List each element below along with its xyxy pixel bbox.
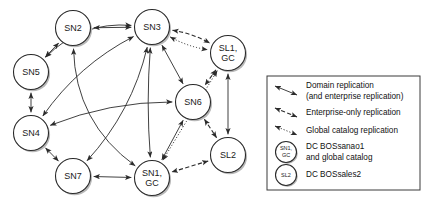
edge-sn3-sl1 [170,37,207,50]
nodes-layer: SN2SN3SL1,GCSN5SN6SN4SL2SN7SN1,GC [14,10,248,198]
node-label: SN5 [22,67,40,77]
edge-sn3-sn4 [43,36,134,116]
node-sn3[interactable]: SN3 [135,10,172,47]
edge-sn6-sn1 [162,120,183,160]
node-sl2[interactable]: SL2 [211,138,248,175]
edge-sl2-sn1 [172,161,208,172]
node-label: SN4 [22,128,40,138]
legend-node-label: SN1, [280,145,293,151]
node-sn1[interactable]: SN1,GC [135,161,172,198]
edge-sn3-sn6 [162,45,183,84]
legend-label-primary: Domain replication [306,81,374,90]
node-label: SN6 [184,97,202,107]
node-sublabel: GC [145,178,159,188]
node-sn5[interactable]: SN5 [14,55,51,92]
node-sublabel: GC [221,53,235,63]
edge-sn6-sn4 [50,102,172,125]
edge-sn3-sl1 [172,30,209,43]
edge-sn6-sl2 [204,119,216,137]
node-sn6[interactable]: SN6 [176,85,213,122]
legend-label-primary: Enterprise-only replication [306,108,401,117]
node-label: SN1, [142,168,162,178]
legend-label-secondary: and global catalog [306,153,373,162]
node-label: SN2 [64,23,82,33]
node-label: SL2 [220,150,236,160]
legend-node-label: SL2 [281,172,291,178]
edge-sn2-sn1 [74,49,136,166]
node-label: SL1, [219,43,238,53]
node-sn2[interactable]: SN2 [56,11,93,48]
legend-panel: Domain replication(and enterprise replic… [267,76,420,190]
legend-node-sublabel: GC [282,152,290,158]
node-label: SN3 [143,22,161,32]
legend-label-secondary: (and enterprise replication) [306,92,404,101]
node-sn4[interactable]: SN4 [14,116,51,153]
replication-topology-diagram: SN2SN3SL1,GCSN5SN6SN4SL2SN7SN1,GC Domain… [0,0,424,203]
edge-sn4-sn7 [45,148,58,161]
node-label: SN7 [64,171,82,181]
legend-entry-4: SN1,GCDC BOSsanao1and global catalog [276,142,373,164]
edge-sl1-sn6 [205,70,216,85]
edge-sn7-sn1 [94,177,132,178]
diagram-canvas: SN2SN3SL1,GCSN5SN6SN4SL2SN7SN1,GC Domain… [0,0,424,203]
legend-label-primary: DC BOSsanao1 [306,142,365,151]
node-sn7[interactable]: SN7 [56,159,93,196]
legend-label-primary: Global catalog replication [306,126,398,135]
legend-label-primary: DC BOSsales2 [306,170,362,179]
node-sl1[interactable]: SL1,GC [211,36,248,73]
